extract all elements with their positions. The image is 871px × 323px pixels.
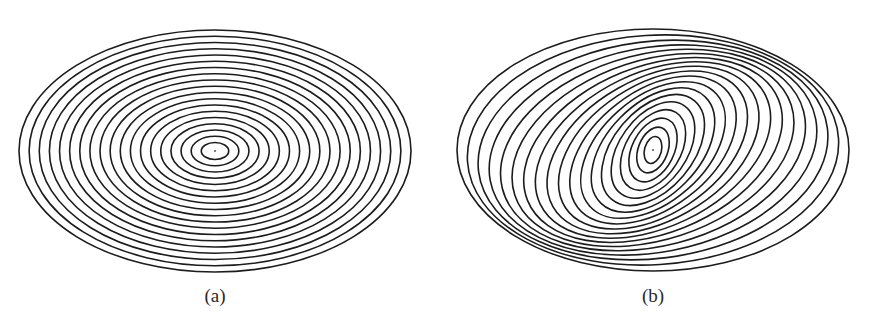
panel-a-contours [19,30,411,272]
figure [0,0,871,323]
panel-b-label: (b) [623,285,683,307]
panel-a-center-point [214,150,216,152]
panel-b-center-point [652,149,654,151]
panel-a-label: (a) [185,285,245,307]
panel-b-contours [457,18,849,281]
